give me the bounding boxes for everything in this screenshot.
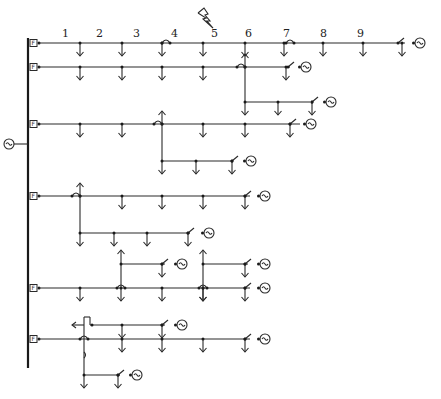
load-node-dot bbox=[244, 101, 247, 104]
dg-connector-dot bbox=[201, 232, 204, 235]
distributed-generator-icon bbox=[177, 259, 187, 269]
switch-dot bbox=[161, 263, 164, 266]
breaker-label: F bbox=[31, 120, 35, 127]
distributed-generator-icon bbox=[132, 370, 142, 380]
load-node-dot bbox=[161, 160, 164, 163]
load-arrow-icon bbox=[118, 288, 125, 301]
load-arrow-icon bbox=[77, 233, 84, 246]
load-arrow-icon bbox=[77, 124, 84, 137]
load-node-dot bbox=[362, 42, 365, 45]
switch-dot bbox=[187, 232, 190, 235]
node-label: 8 bbox=[320, 27, 327, 40]
load-arrow-icon bbox=[159, 161, 166, 174]
feeder-breaker-icon[interactable]: F bbox=[30, 335, 37, 342]
load-node-dot bbox=[121, 123, 124, 126]
dg-connector-dot bbox=[257, 195, 260, 198]
load-arrow-icon bbox=[360, 43, 367, 56]
load-node-dot bbox=[121, 66, 124, 69]
switch-dot bbox=[79, 338, 82, 341]
switch-dot bbox=[293, 42, 296, 45]
switch-dot bbox=[87, 338, 90, 341]
load-node-dot bbox=[244, 123, 247, 126]
dg-connector-dot bbox=[174, 324, 177, 327]
distributed-generator-icon bbox=[246, 156, 256, 166]
switch-dot bbox=[124, 287, 127, 290]
load-arrow-icon bbox=[193, 161, 200, 174]
node-label: 9 bbox=[357, 27, 364, 40]
distributed-generator-icon bbox=[260, 259, 270, 269]
distributed-generator-icon bbox=[301, 62, 311, 72]
fault-lightning-icon bbox=[198, 8, 213, 28]
dg-connector-dot bbox=[412, 42, 415, 45]
load-node-dot bbox=[121, 42, 124, 45]
load-arrow-icon bbox=[159, 325, 166, 338]
switch-dot bbox=[244, 263, 247, 266]
load-arrow-icon bbox=[200, 43, 207, 56]
dg-connector-dot bbox=[323, 101, 326, 104]
load-node-dot bbox=[244, 42, 247, 45]
node-label: 2 bbox=[96, 27, 103, 40]
distributed-generator-icon bbox=[260, 334, 270, 344]
node-label: 6 bbox=[245, 27, 252, 40]
load-node-dot bbox=[202, 123, 205, 126]
load-arrow-icon bbox=[200, 339, 207, 352]
load-node-dot bbox=[202, 195, 205, 198]
dg-connector-dot bbox=[257, 287, 260, 290]
branch-node-dot bbox=[120, 263, 123, 266]
load-node-dot bbox=[121, 195, 124, 198]
dg-connector-dot bbox=[257, 338, 260, 341]
switch-dot bbox=[236, 66, 239, 69]
load-node-dot bbox=[202, 66, 205, 69]
feeder-breaker-icon[interactable]: F bbox=[30, 284, 37, 291]
load-arrow-icon bbox=[111, 233, 118, 246]
branch-node-dot bbox=[202, 263, 205, 266]
switch-dot bbox=[153, 123, 156, 126]
load-node-dot bbox=[161, 287, 164, 290]
dg-connector-dot bbox=[298, 66, 301, 69]
load-node-dot bbox=[79, 287, 82, 290]
load-arrow-icon bbox=[229, 161, 236, 174]
load-arrow-icon bbox=[287, 124, 294, 137]
load-node-dot bbox=[113, 232, 116, 235]
breaker-label: F bbox=[31, 63, 35, 70]
feeder-breaker-icon[interactable]: F bbox=[30, 39, 37, 46]
load-arrow-icon bbox=[119, 339, 126, 352]
load-node-dot bbox=[146, 232, 149, 235]
load-arrow-icon bbox=[242, 288, 249, 301]
load-arrow-icon bbox=[242, 124, 249, 137]
distributed-generator-icon bbox=[326, 97, 336, 107]
switch-dot bbox=[116, 287, 119, 290]
load-arrow-icon bbox=[144, 233, 151, 246]
substation-source-icon bbox=[4, 139, 28, 149]
load-arrow-icon bbox=[159, 43, 166, 56]
breaker-label: F bbox=[31, 335, 35, 342]
load-node-dot bbox=[161, 195, 164, 198]
node-label: 1 bbox=[62, 27, 69, 40]
switch-dot bbox=[117, 374, 120, 377]
feeder-breaker-icon[interactable]: F bbox=[30, 192, 37, 199]
distributed-generator-icon bbox=[260, 191, 270, 201]
load-arrow-icon bbox=[200, 288, 207, 301]
load-node-dot bbox=[121, 324, 124, 327]
load-node-dot bbox=[79, 66, 82, 69]
node-label: 4 bbox=[171, 27, 178, 40]
feeder-breaker-icon[interactable]: F bbox=[30, 120, 37, 127]
load-arrow-icon bbox=[242, 102, 249, 115]
switch-dot bbox=[244, 287, 247, 290]
breaker-label: F bbox=[31, 39, 35, 46]
dg-connector-dot bbox=[174, 263, 177, 266]
switch-dot bbox=[161, 324, 164, 327]
distributed-generator-icon bbox=[260, 283, 270, 293]
load-arrow-icon bbox=[200, 67, 207, 80]
load-arrow-icon bbox=[281, 43, 288, 56]
breaker-label: F bbox=[31, 192, 35, 199]
switch-dot bbox=[231, 160, 234, 163]
load-arrow-icon bbox=[159, 339, 166, 352]
switch-dot bbox=[397, 42, 400, 45]
distributed-generator-icon bbox=[177, 320, 187, 330]
load-arrow-icon bbox=[119, 196, 126, 209]
distributed-generator-icon bbox=[306, 119, 316, 129]
network-canvas: 123456789FFFFFF bbox=[0, 0, 441, 399]
feeder-breaker-icon[interactable]: F bbox=[30, 63, 37, 70]
load-arrow-icon bbox=[242, 264, 249, 277]
